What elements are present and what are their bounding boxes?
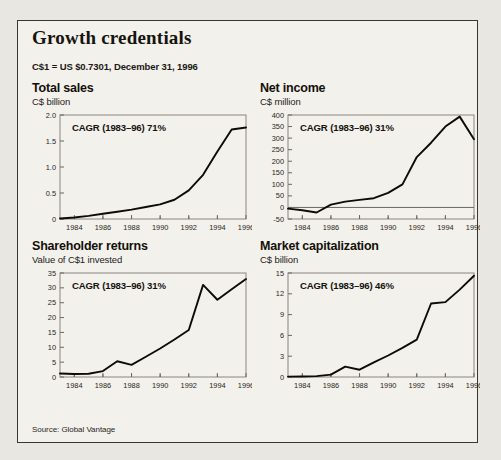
svg-text:1984: 1984 <box>294 223 310 232</box>
svg-text:25: 25 <box>48 298 56 307</box>
line-chart-svg: -500501001502002503003504001984198619881… <box>256 109 480 237</box>
svg-text:1986: 1986 <box>323 381 339 390</box>
source-note: Source: Global Vantage <box>32 425 115 434</box>
chart-title: Market capitalization <box>260 239 379 253</box>
svg-text:20: 20 <box>48 313 56 322</box>
line-chart-svg: 00.51.01.52.0198419861988199019921994199… <box>28 109 252 237</box>
svg-text:10: 10 <box>48 343 56 352</box>
svg-text:0: 0 <box>52 215 56 224</box>
svg-text:1984: 1984 <box>66 223 82 232</box>
svg-text:1996: 1996 <box>466 381 480 390</box>
svg-text:1984: 1984 <box>294 381 310 390</box>
svg-text:300: 300 <box>272 134 284 143</box>
svg-text:1990: 1990 <box>380 223 396 232</box>
growth-credentials-panel: Growth credentials C$1 = US $0.7301, Dec… <box>17 20 478 443</box>
svg-text:200: 200 <box>272 157 284 166</box>
svg-text:1986: 1986 <box>95 381 111 390</box>
chart-net-income: Net income C$ million -50050100150200250… <box>256 81 480 241</box>
svg-text:3: 3 <box>280 352 284 361</box>
svg-text:1994: 1994 <box>209 381 225 390</box>
svg-text:1986: 1986 <box>95 223 111 232</box>
chart-title: Shareholder returns <box>32 239 148 253</box>
svg-text:1988: 1988 <box>351 381 367 390</box>
svg-text:350: 350 <box>272 122 284 131</box>
svg-text:1988: 1988 <box>123 223 139 232</box>
svg-text:1988: 1988 <box>123 381 139 390</box>
svg-text:6: 6 <box>280 331 284 340</box>
svg-text:-50: -50 <box>273 215 284 224</box>
svg-text:1992: 1992 <box>409 223 425 232</box>
cagr-annotation: CAGR (1983–96) 71% <box>72 122 166 133</box>
svg-text:15: 15 <box>276 269 284 278</box>
chart-market-capitalization: Market capitalization C$ billion 0369121… <box>256 239 480 399</box>
chart-title: Total sales <box>32 81 93 95</box>
svg-text:1.0: 1.0 <box>46 163 56 172</box>
chart-unit-label: Value of C$1 invested <box>32 254 122 265</box>
cagr-annotation: CAGR (1983–96) 31% <box>300 122 394 133</box>
svg-text:30: 30 <box>48 283 56 292</box>
svg-text:1992: 1992 <box>181 381 197 390</box>
chart-unit-label: C$ billion <box>32 96 70 107</box>
svg-text:5: 5 <box>52 358 56 367</box>
svg-text:35: 35 <box>48 269 56 278</box>
svg-text:1996: 1996 <box>238 381 252 390</box>
svg-text:1992: 1992 <box>409 381 425 390</box>
svg-text:1990: 1990 <box>380 381 396 390</box>
line-chart-svg: 0510152025303519841986198819901992199419… <box>28 267 252 395</box>
svg-text:1994: 1994 <box>209 223 225 232</box>
svg-text:150: 150 <box>272 168 284 177</box>
data-series-line <box>60 127 246 218</box>
cagr-annotation: CAGR (1983–96) 31% <box>72 280 166 291</box>
page-title: Growth credentials <box>32 27 192 49</box>
exchange-rate-note: C$1 = US $0.7301, December 31, 1996 <box>32 61 198 72</box>
svg-text:400: 400 <box>272 111 284 120</box>
svg-text:100: 100 <box>272 180 284 189</box>
cagr-annotation: CAGR (1983–96) 46% <box>300 280 394 291</box>
svg-text:1992: 1992 <box>181 223 197 232</box>
svg-text:1990: 1990 <box>152 381 168 390</box>
svg-text:0: 0 <box>280 373 284 382</box>
svg-text:1.5: 1.5 <box>46 137 56 146</box>
chart-total-sales: Total sales C$ billion 00.51.01.52.01984… <box>28 81 252 241</box>
chart-shareholder-returns: Shareholder returns Value of C$1 investe… <box>28 239 252 399</box>
svg-text:1988: 1988 <box>351 223 367 232</box>
svg-text:1996: 1996 <box>238 223 252 232</box>
chart-unit-label: C$ million <box>260 96 301 107</box>
line-chart-svg: 036912151984198619881990199219941996CAGR… <box>256 267 480 395</box>
svg-text:12: 12 <box>276 289 284 298</box>
svg-text:1984: 1984 <box>66 381 82 390</box>
svg-text:2.0: 2.0 <box>46 111 56 120</box>
data-series-line <box>60 279 246 374</box>
svg-text:0.5: 0.5 <box>46 189 56 198</box>
svg-text:1994: 1994 <box>437 223 453 232</box>
svg-text:1990: 1990 <box>152 223 168 232</box>
svg-text:15: 15 <box>48 328 56 337</box>
svg-text:1994: 1994 <box>437 381 453 390</box>
svg-text:0: 0 <box>52 373 56 382</box>
svg-text:250: 250 <box>272 145 284 154</box>
svg-text:1996: 1996 <box>466 223 480 232</box>
chart-title: Net income <box>260 81 325 95</box>
chart-unit-label: C$ billion <box>260 254 298 265</box>
svg-text:9: 9 <box>280 310 284 319</box>
svg-text:0: 0 <box>280 203 284 212</box>
svg-text:1986: 1986 <box>323 223 339 232</box>
svg-text:50: 50 <box>276 191 284 200</box>
